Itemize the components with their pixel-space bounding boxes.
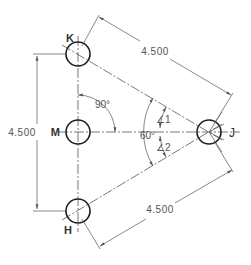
dimension-line-bottom: [175, 170, 232, 203]
hole-pattern-drawing: K M H J 4.500 4.500 4.500 90° 60° ∠1 ∠2: [0, 0, 251, 265]
dimension-text-top: 4.500: [141, 46, 169, 57]
hole-label-k: K: [66, 32, 74, 44]
dimension-text-bottom: 4.500: [146, 204, 174, 215]
angle-text-60: 60°: [140, 130, 155, 141]
angle-text-90: 90°: [95, 99, 110, 110]
extension-line: [214, 141, 233, 172]
hole-label-j: J: [229, 126, 235, 140]
hole-label-m: M: [51, 126, 60, 138]
dimension-line-top: [99, 17, 140, 41]
dimension-line-bottom: [100, 219, 146, 246]
extension-line: [82, 15, 99, 46]
dimension-text-left: 4.500: [8, 127, 36, 138]
hole-label-h: H: [64, 224, 72, 236]
angle-text-1: ∠1: [156, 114, 171, 125]
angle-text-2: ∠2: [156, 142, 171, 153]
dimension-line-top: [170, 59, 231, 95]
extension-line: [82, 219, 100, 249]
